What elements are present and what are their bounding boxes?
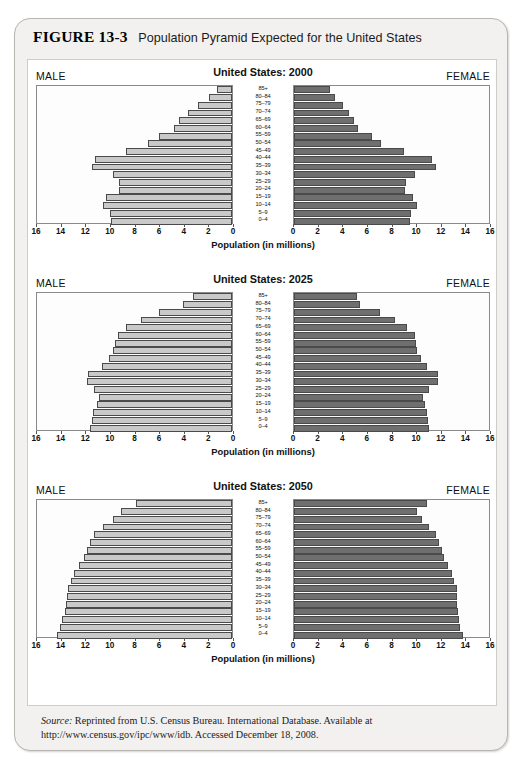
table-row xyxy=(37,616,232,624)
age-group-label: 45–49 xyxy=(233,354,293,362)
axis-tick-label: 2 xyxy=(315,227,320,236)
table-row xyxy=(37,171,232,179)
male-bar xyxy=(103,524,232,531)
age-group-label: 15–19 xyxy=(233,400,293,408)
male-bar xyxy=(94,531,232,538)
axis-tick-label: 12 xyxy=(81,434,90,443)
female-bar xyxy=(294,140,381,147)
female-x-axis: 0246810121416 xyxy=(293,638,490,654)
female-bar xyxy=(294,531,436,538)
axis-tick-label: 14 xyxy=(461,227,470,236)
axis-tick-label: 6 xyxy=(157,227,162,236)
age-group-label: 75–79 xyxy=(233,514,293,522)
pyramid-chart-list: United States: 2000MALEFEMALE85+80–8475–… xyxy=(28,60,496,681)
table-row xyxy=(37,554,232,562)
table-row xyxy=(37,500,232,508)
table-row xyxy=(37,585,232,593)
source-label: Source: xyxy=(41,715,72,726)
table-row xyxy=(294,401,489,409)
x-axis: 16141210864200246810121416Population (in… xyxy=(36,224,490,244)
axis-tick-label: 0 xyxy=(291,434,296,443)
axis-tick-label: 12 xyxy=(436,434,445,443)
age-group-label: 0–4 xyxy=(233,423,293,431)
table-row xyxy=(37,140,232,148)
male-bar xyxy=(88,371,232,378)
male-bar xyxy=(71,578,232,585)
age-group-label: 20–24 xyxy=(233,599,293,607)
axis-tick-label: 14 xyxy=(56,641,65,650)
male-bar xyxy=(110,210,232,217)
table-row xyxy=(294,148,489,156)
female-bar xyxy=(294,500,427,507)
male-bar xyxy=(68,585,232,592)
male-bar xyxy=(113,516,232,523)
age-group-label: 20–24 xyxy=(233,392,293,400)
male-bar xyxy=(193,293,232,300)
figure-header: FIGURE 13-3 Population Pyramid Expected … xyxy=(15,19,507,57)
female-bar xyxy=(294,409,427,416)
female-side-label: FEMALE xyxy=(446,70,490,82)
table-row xyxy=(294,347,489,355)
axis-tick-label: 8 xyxy=(389,641,394,650)
table-row xyxy=(294,86,489,94)
age-group-label: 65–69 xyxy=(233,116,293,124)
male-bar xyxy=(118,332,233,339)
table-row xyxy=(37,515,232,523)
chart-title: United States: 2050 xyxy=(28,480,498,492)
age-group-label: 15–19 xyxy=(233,193,293,201)
female-bar xyxy=(294,624,460,631)
male-x-axis: 1614121086420 xyxy=(36,638,233,654)
age-group-label: 30–34 xyxy=(233,170,293,178)
table-row xyxy=(37,117,232,125)
table-row xyxy=(294,554,489,562)
table-row xyxy=(294,293,489,301)
table-row xyxy=(37,94,232,102)
table-row xyxy=(294,109,489,117)
female-bar xyxy=(294,524,429,531)
male-bar xyxy=(174,125,232,132)
female-bar xyxy=(294,417,428,424)
male-bar xyxy=(84,554,232,561)
table-row xyxy=(37,531,232,539)
age-group-label: 45–49 xyxy=(233,561,293,569)
age-group-label: 70–74 xyxy=(233,315,293,323)
female-plot-area xyxy=(293,499,490,638)
axis-tick-label: 4 xyxy=(340,641,345,650)
pyramid-panes: 85+80–8475–7970–7465–6960–6455–5950–5445… xyxy=(36,85,490,224)
age-group-label: 10–14 xyxy=(233,408,293,416)
axis-tick-label: 16 xyxy=(31,227,40,236)
female-bar xyxy=(294,117,354,124)
female-bar xyxy=(294,371,438,378)
male-bar xyxy=(179,117,232,124)
female-bar xyxy=(294,547,442,554)
female-bar xyxy=(294,516,422,523)
table-row xyxy=(37,600,232,608)
female-bar xyxy=(294,585,457,592)
female-bar xyxy=(294,386,429,393)
age-group-label: 35–39 xyxy=(233,369,293,377)
female-bar xyxy=(294,194,413,201)
axis-tick-label: 4 xyxy=(181,434,186,443)
axis-tick-label: 0 xyxy=(231,641,236,650)
age-group-label: 20–24 xyxy=(233,185,293,193)
age-group-label: 65–69 xyxy=(233,323,293,331)
table-row xyxy=(294,308,489,316)
table-row xyxy=(37,339,232,347)
x-axis-title: Population (in millions) xyxy=(36,239,490,250)
axis-tick-label: 0 xyxy=(291,641,296,650)
female-bar xyxy=(294,156,432,163)
male-bar xyxy=(97,401,232,408)
axis-tick-label: 2 xyxy=(206,434,211,443)
female-plot-area xyxy=(293,292,490,431)
male-bar xyxy=(217,86,232,93)
male-plot-area xyxy=(36,85,233,224)
table-row xyxy=(37,608,232,616)
female-bar xyxy=(294,94,335,101)
table-row xyxy=(37,362,232,370)
male-bar xyxy=(93,409,232,416)
age-group-axis: 85+80–8475–7970–7465–6960–6455–5950–5445… xyxy=(233,292,293,431)
table-row xyxy=(294,301,489,309)
table-row xyxy=(37,109,232,117)
male-bar xyxy=(90,539,232,546)
axis-tick-label: 8 xyxy=(389,227,394,236)
